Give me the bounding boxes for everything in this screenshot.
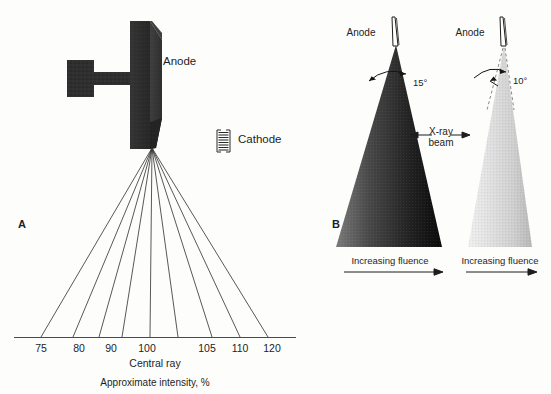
ray-line <box>122 148 152 337</box>
panel-a-graphic <box>0 0 310 394</box>
panel-a: A Anode Cathode 75 80 90 100 105 110 120… <box>0 0 310 394</box>
anode-support-block-icon <box>67 60 138 97</box>
ray-fan <box>41 148 268 337</box>
fluence-arrow-right <box>466 269 537 275</box>
ray-line <box>152 148 212 337</box>
anode-label-b-right: Anode <box>456 28 485 38</box>
angle-label-10deg: 10° <box>513 76 527 86</box>
xray-beam-label-line2: beam <box>428 137 453 148</box>
cathode-label: Cathode <box>238 134 281 146</box>
tick-label-120: 120 <box>263 343 281 354</box>
panel-b-graphic <box>310 0 551 394</box>
cone-dark-15deg <box>336 45 442 247</box>
anode-label-a: Anode <box>163 56 196 68</box>
tick-label-100: 100 <box>138 343 156 354</box>
panel-a-letter: A <box>18 219 26 230</box>
ray-line <box>150 148 152 337</box>
tick-label-110: 110 <box>232 343 249 354</box>
ray-line <box>73 148 152 337</box>
central-ray-caption: Central ray <box>129 358 180 369</box>
fluence-label-left: Increasing fluence <box>351 256 428 266</box>
xray-beam-label-line1: X-ray <box>429 126 453 137</box>
ray-line <box>41 148 152 337</box>
approximate-intensity-caption: Approximate intensity, % <box>100 378 209 388</box>
ray-line <box>152 148 268 337</box>
anode-label-b-left: Anode <box>347 28 376 38</box>
figure-root: A Anode Cathode 75 80 90 100 105 110 120… <box>0 0 551 394</box>
xray-beam-label: X-ray beam <box>428 126 453 148</box>
anode-block-icon <box>130 21 162 149</box>
anode-needle-right-icon <box>500 17 507 46</box>
fluence-arrow-left <box>344 269 443 275</box>
tick-label-105: 105 <box>198 343 216 354</box>
ray-line <box>99 148 152 337</box>
angle-label-15deg: 15° <box>413 78 427 88</box>
tick-label-80: 80 <box>73 343 85 354</box>
panel-b-letter: B <box>332 219 340 230</box>
panel-b: B Anode Anode 15° 10° X-ray beam Increas… <box>310 0 551 394</box>
fluence-label-right: Increasing fluence <box>461 256 538 266</box>
cathode-filament-icon <box>217 130 230 152</box>
tick-label-90: 90 <box>105 343 117 354</box>
anode-needle-left-icon <box>392 17 399 46</box>
tick-label-75: 75 <box>35 343 47 354</box>
